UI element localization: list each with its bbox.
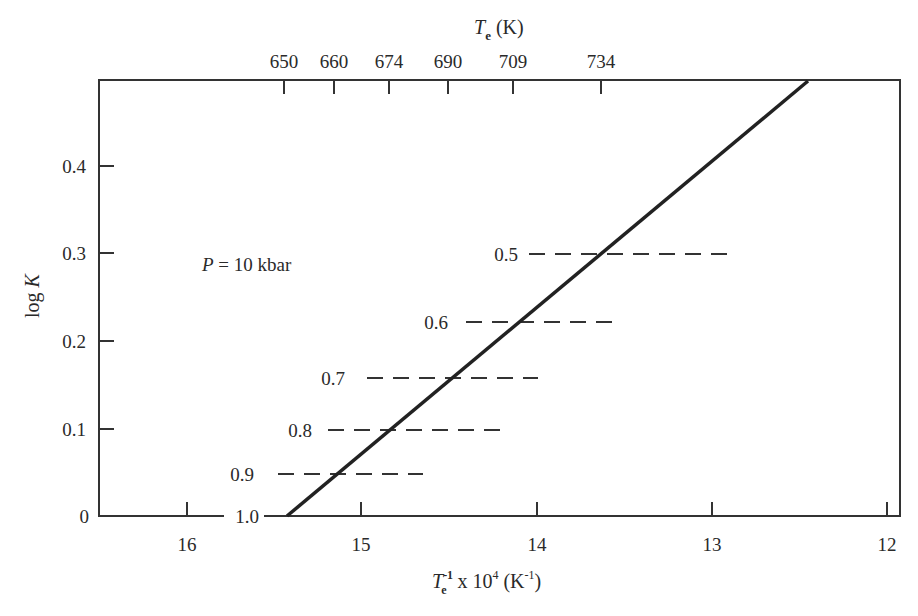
top-tick-label: 690 [434, 51, 463, 72]
left-axis-labels: 0 0.1 0.2 0.3 0.4 [62, 156, 89, 527]
top-axis-title: Te (K) [474, 16, 524, 43]
dashed-line-labels: 1.0 0.9 0.8 0.7 0.6 0.5 [230, 244, 518, 527]
bottom-tick-label: 15 [352, 534, 371, 555]
data-series-line [287, 81, 808, 516]
y-axis-title: log K [21, 272, 44, 318]
dashed-label: 0.9 [230, 464, 254, 485]
bottom-tick-label: 14 [528, 534, 548, 555]
top-tick-label: 709 [499, 51, 528, 72]
left-tick-label: 0.4 [62, 156, 86, 177]
plot-frame [99, 80, 900, 516]
top-tick-label: 660 [320, 51, 349, 72]
dashed-label: 0.8 [288, 420, 312, 441]
x-axis-title: T-1e x 104 (K-1) [432, 568, 541, 597]
bottom-tick-label: 16 [178, 534, 197, 555]
left-tick-label: 0.2 [62, 331, 86, 352]
left-axis-ticks [99, 166, 114, 429]
top-axis-ticks [284, 80, 601, 94]
bottom-tick-label: 13 [703, 534, 722, 555]
bottom-tick-label: 12 [878, 534, 897, 555]
dashed-reference-lines [278, 254, 727, 474]
top-axis-labels: 650 660 674 690 709 734 [270, 51, 616, 72]
left-tick-label: 0 [80, 506, 90, 527]
dashed-label: 1.0 [235, 506, 259, 527]
dashed-label: 0.7 [321, 368, 345, 389]
chart-canvas: 650 660 674 690 709 734 Te (K) 16 15 14 … [0, 0, 918, 616]
left-tick-label: 0.3 [62, 243, 86, 264]
bottom-axis-labels: 16 15 14 13 12 [178, 534, 897, 555]
top-tick-label: 650 [270, 51, 299, 72]
top-tick-label: 674 [375, 51, 404, 72]
top-tick-label: 734 [587, 51, 616, 72]
pressure-annotation: P = 10 kbar [201, 254, 292, 275]
left-tick-label: 0.1 [62, 419, 86, 440]
dashed-label: 0.5 [494, 244, 518, 265]
dashed-label: 0.6 [424, 312, 448, 333]
